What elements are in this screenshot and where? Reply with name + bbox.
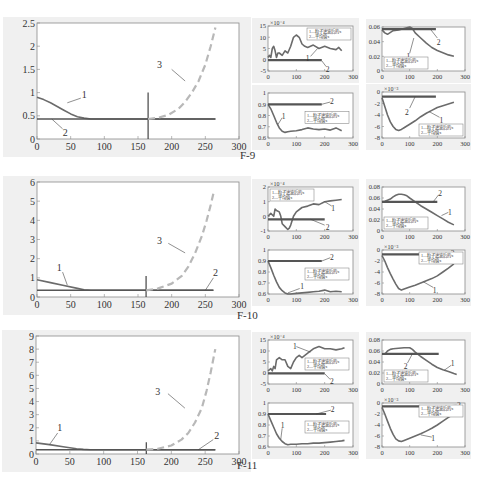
x-tick-label: 0	[266, 73, 269, 80]
y-tick-label: -8	[375, 134, 380, 141]
x-tick-label: 300	[460, 296, 470, 303]
y-tick-label: 1	[263, 89, 266, 96]
x-tick-label: 100	[291, 73, 301, 80]
series-label: 1	[57, 262, 62, 273]
y-tick-label: -1	[261, 227, 266, 234]
x-tick-label: 0	[380, 449, 383, 456]
y-tick-label: 0.7	[258, 123, 267, 130]
y-tick-label: 0.9	[258, 410, 266, 417]
series-label: 1	[300, 282, 304, 291]
y-tick-label: 2	[263, 183, 266, 190]
x-tick-label: 200	[432, 233, 442, 240]
y-tick-label: 0	[377, 399, 380, 406]
series-label: 1	[293, 342, 297, 351]
series-label: 1	[57, 422, 62, 433]
x-tick-label: 200	[164, 141, 179, 152]
x-tick-label: 300	[348, 386, 358, 393]
y-tick-label: 6	[30, 177, 35, 188]
x-tick-label: 300	[348, 449, 358, 456]
x-tick-label: 0	[266, 296, 269, 303]
x-tick-label: 0	[266, 386, 269, 393]
x-tick-label: 0	[35, 141, 40, 152]
x-tick-label: 200	[320, 233, 330, 240]
x-tick-label: 200	[164, 299, 179, 310]
x-tick-label: 200	[432, 386, 442, 393]
legend: 1—粒子滤波后的x2—平均值x	[419, 405, 463, 417]
x-tick-label: 100	[96, 456, 111, 467]
legend: 1—粒子滤波后的x2—平均值x	[384, 370, 428, 382]
x-tick-label: 0	[380, 233, 383, 240]
legend-item: 2—平均值x	[309, 33, 330, 40]
exponent-label: ×10⁻³	[384, 86, 399, 92]
x-tick-label: 200	[432, 449, 442, 456]
y-tick-label: 10	[260, 347, 267, 354]
subplot-1: -10120100200300×10⁻⁴121—粒子滤波后的x2—平均值x	[252, 179, 359, 243]
y-tick-label: 10	[260, 34, 267, 41]
x-tick-label: 100	[405, 449, 415, 456]
x-tick-label: 100	[405, 140, 415, 147]
x-tick-label: 100	[405, 73, 415, 80]
y-tick-label: 0.5	[23, 110, 36, 121]
x-tick-label: 100	[97, 141, 112, 152]
subplot-2: 00.020.040.060.080100200300121—粒子滤波后的x2—…	[366, 179, 471, 243]
x-tick-label: 100	[405, 386, 415, 393]
series-label: 1	[451, 359, 455, 368]
series-label: 1	[306, 54, 310, 63]
x-tick-label: 200	[320, 386, 330, 393]
y-tick-label: 2	[30, 253, 35, 264]
y-tick-label: 0.04	[369, 205, 381, 212]
y-tick-label: 4	[29, 396, 34, 407]
series-label: 3	[155, 386, 160, 397]
subplot-3: 0.60.70.80.910100200300121—粒子滤波后的x2—平均值x	[252, 395, 359, 459]
x-tick-label: 300	[348, 296, 358, 303]
x-tick-label: 250	[198, 299, 213, 310]
plot-area	[36, 336, 239, 454]
legend: 1—粒子滤波后的x2—平均值x	[270, 189, 314, 201]
y-tick-label: 0.7	[258, 432, 267, 439]
y-tick-label: 0.04	[369, 38, 381, 45]
subplot-4: -8-6-4-200100200300×10⁻³121—粒子滤波后的x2—平均值…	[366, 395, 471, 459]
y-tick-label: 2.5	[23, 18, 36, 29]
x-tick-label: 300	[460, 73, 470, 80]
x-tick-label: 50	[65, 456, 75, 467]
y-tick-label: 15	[260, 336, 267, 343]
legend-item: 2—平均值x	[421, 129, 442, 136]
y-tick-label: 15	[260, 22, 267, 29]
y-tick-label: 0.08	[369, 336, 380, 343]
legend-item: 2—平均值x	[421, 410, 442, 417]
legend-item: 2—平均值x	[386, 375, 407, 382]
y-tick-label: -5	[261, 67, 266, 74]
y-tick-label: 0.8	[258, 421, 266, 428]
x-tick-label: 0	[380, 140, 383, 147]
series-label: 1	[440, 116, 444, 125]
series-label: 2	[213, 267, 218, 278]
y-tick-label: 0.02	[369, 216, 380, 223]
series-label: 1	[431, 434, 435, 443]
figure-canvas: 00.511.522.5050100150200250300123-505101…	[0, 0, 494, 487]
y-tick-label: 1	[263, 246, 266, 253]
y-tick-label: 0.8	[258, 268, 266, 275]
legend-item: 2—平均值x	[307, 117, 328, 124]
x-tick-label: 0	[266, 233, 269, 240]
x-tick-label: 200	[432, 73, 442, 80]
series-label: 1	[82, 89, 87, 100]
x-tick-label: 100	[405, 296, 415, 303]
y-tick-label: -5	[261, 380, 266, 387]
exponent-label: ×10⁻⁴	[270, 20, 285, 26]
x-tick-label: 150	[131, 299, 146, 310]
y-tick-label: 0.9	[258, 101, 266, 108]
x-tick-label: 100	[291, 296, 301, 303]
y-tick-label: 4	[30, 215, 35, 226]
y-tick-label: 0.06	[369, 347, 381, 354]
x-tick-label: 300	[460, 386, 470, 393]
y-tick-label: 3	[29, 409, 34, 420]
x-tick-label: 300	[348, 140, 358, 147]
y-tick-label: 3	[30, 234, 35, 245]
y-tick-label: 0	[263, 213, 266, 220]
x-tick-label: 300	[460, 233, 470, 240]
y-tick-label: -2	[375, 410, 380, 417]
exponent-label: ×10⁻³	[384, 397, 399, 403]
x-tick-label: 100	[405, 233, 415, 240]
x-tick-label: 300	[460, 449, 470, 456]
y-tick-label: 5	[263, 358, 266, 365]
